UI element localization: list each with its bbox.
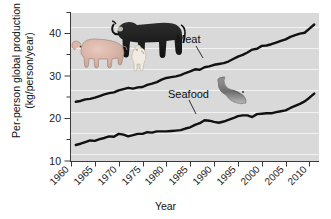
x-tick-label: 1960 — [47, 163, 71, 187]
y-axis-line — [70, 12, 71, 162]
gridline — [71, 133, 319, 134]
x-axis-ticks — [72, 162, 310, 167]
y-axis-title-line1: Per-person global production — [10, 0, 23, 146]
y-tick-label: 20 — [49, 112, 61, 124]
gridline — [71, 48, 319, 49]
y-tick-label: 40 — [49, 27, 61, 39]
gridline — [71, 112, 319, 113]
x-tick-label: 1985 — [166, 163, 190, 187]
x-tick-label: 2000 — [238, 163, 262, 187]
x-tick-label: 2005 — [262, 163, 286, 187]
y-tick-label: 30 — [49, 70, 61, 82]
x-tick-label: 1995 — [214, 163, 238, 187]
x-tick-label: 1975 — [119, 163, 143, 187]
gridline — [71, 69, 319, 70]
y-axis-title-line2: (kg/person/year) — [22, 0, 35, 146]
x-axis-title: Year — [0, 200, 331, 212]
x-axis-tick-labels: 1960196519701975198019851990199520002005… — [47, 163, 309, 187]
x-tick-label: 1965 — [71, 163, 95, 187]
x-axis-line — [70, 161, 319, 162]
x-tick-label: 2010 — [285, 163, 309, 187]
x-tick-label: 1970 — [95, 163, 119, 187]
gridline — [71, 27, 319, 28]
chart-figure: Per-person global production (kg/person/… — [0, 0, 331, 219]
x-tick-label: 1980 — [142, 163, 166, 187]
y-tick-label: 10 — [49, 155, 61, 167]
x-tick-label: 1990 — [190, 163, 214, 187]
series-label-seafood: Seafood — [168, 88, 209, 100]
gridline — [71, 154, 319, 155]
y-axis-title: Per-person global production (kg/person/… — [10, 0, 35, 146]
y-axis-tick-labels: 40 30 20 10 — [49, 27, 61, 167]
series-label-meat: Meat — [176, 33, 200, 45]
